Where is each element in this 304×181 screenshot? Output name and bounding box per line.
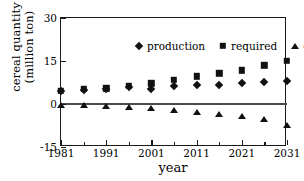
diamond-marker-icon [135,42,143,50]
legend-label: required [231,40,277,52]
data-point-difference [260,116,268,122]
cereal-quantity-chart: cereal quantity (million ton) 30150-15 1… [0,0,304,181]
legend-label: production [147,40,205,52]
data-point-production [238,79,246,87]
zero-baseline [61,103,287,104]
x-tick [61,140,62,145]
data-point-production [215,80,223,88]
data-point-difference [215,111,223,117]
x-tick-label: 2011 [183,147,210,159]
data-point-required [103,85,109,91]
data-point-production [192,81,200,89]
data-point-production [283,77,291,85]
data-point-difference [125,104,133,110]
x-tick [242,140,243,145]
data-point-required [171,77,177,83]
x-tick-label: 2001 [138,147,165,159]
x-tick-minor [219,142,220,145]
data-point-required [80,86,86,92]
chart-legend: productionrequireddifference [123,37,304,55]
legend-item-production: production [135,40,205,52]
data-point-difference [147,105,155,111]
data-point-required [216,70,222,76]
data-point-required [284,58,290,64]
x-tick-label: 1981 [48,147,75,159]
x-tick [106,140,107,145]
data-point-required [58,88,64,94]
y-tick-label: 30 [44,12,57,24]
legend-item-required: required [219,40,277,52]
x-axis-title: year [60,160,286,175]
triangle-marker-icon [291,42,299,50]
y-tick-label: 0 [50,98,57,110]
x-tick-minor [129,142,130,145]
y-tick [61,18,66,19]
y-tick-label: 15 [44,55,57,67]
data-point-required [193,73,199,79]
x-tick-label: 1991 [93,147,120,159]
plot-area: 30150-15 198119912001201120212031 produc… [60,17,286,146]
x-tick-minor [174,142,175,145]
y-tick [61,61,66,62]
data-point-production [260,78,268,86]
x-tick-minor [84,142,85,145]
data-point-difference [170,107,178,113]
data-point-required [239,67,245,73]
x-tick-label: 2031 [274,147,301,159]
x-tick [197,140,198,145]
square-marker-icon [219,42,227,50]
data-point-difference [80,102,88,108]
data-point-production [170,82,178,90]
data-point-difference [283,122,291,128]
x-tick [287,140,288,145]
data-point-difference [238,113,246,119]
data-point-required [126,83,132,89]
x-tick [151,140,152,145]
y-axis-title-line-2: (million ton) [23,0,36,117]
legend-label: difference [303,40,304,52]
y-axis-title: cereal quantity (million ton) [10,0,36,117]
data-point-required [261,62,267,68]
data-point-difference [57,102,65,108]
legend-item-difference: difference [291,40,304,52]
x-tick-minor [264,142,265,145]
data-point-required [148,80,154,86]
data-point-difference [102,103,110,109]
x-tick-label: 2021 [228,147,255,159]
data-point-difference [193,109,201,115]
